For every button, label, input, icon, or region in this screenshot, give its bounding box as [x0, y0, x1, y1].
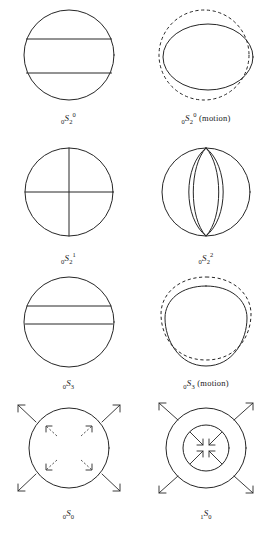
- oblate-ellipse-with-dashed-circle-art: [145, 0, 267, 112]
- panel-sub: 2: [190, 118, 193, 125]
- panel-sub: 0: [71, 513, 74, 520]
- panel-0s2-0: 0S20: [0, 0, 137, 140]
- panel-label-0s3: 0S3: [63, 378, 75, 392]
- panel-suffix: (motion): [199, 113, 230, 123]
- panel-0s3: 0S3: [0, 268, 137, 398]
- panel-sub: 3: [71, 383, 74, 390]
- sphere-two-horizontal-nodal-lines-offset-art: [8, 268, 130, 380]
- figure-caption: [0, 526, 275, 542]
- panel-sub: 2: [69, 118, 72, 125]
- sphere-radial-breathing-outward-art: [8, 398, 130, 510]
- concentric-circles-in-out-arrows-art: [145, 398, 267, 510]
- panel-sub: 3: [191, 383, 194, 390]
- panel-label-0s2-0-motion: 0S20 (motion): [182, 110, 231, 127]
- panel-1s0: 1S0: [137, 398, 275, 525]
- panel-sub: 0: [208, 513, 211, 520]
- panel-sup: 0: [73, 111, 76, 118]
- sphere-cross-nodal-lines-art: [8, 140, 130, 252]
- panel-grid: 0S20 0S20 (motion): [0, 0, 275, 525]
- panel-label-0s3-motion: 0S3 (motion): [183, 378, 228, 392]
- panel-label-0s2-0: 0S20: [61, 110, 76, 127]
- panel-sup: 2: [210, 251, 213, 258]
- panel-0s2-1: 0S21: [0, 140, 137, 268]
- sphere-two-horizontal-nodal-lines-art: [8, 0, 130, 112]
- figure-root: 0S20 0S20 (motion): [0, 0, 275, 542]
- panel-sub: 2: [207, 258, 210, 265]
- deformed-blob-with-dashed-outline-art: [145, 268, 267, 380]
- panel-0s2-0-motion: 0S20 (motion): [137, 0, 275, 140]
- panel-label-0s2-2: 0S22: [198, 250, 213, 267]
- panel-sub: 2: [69, 258, 72, 265]
- panel-label-0s0: 0S0: [63, 508, 75, 522]
- panel-label-1s0: 1S0: [200, 508, 212, 522]
- panel-0s2-2: 0S22: [137, 140, 275, 268]
- sphere-two-vertical-nodal-lines-art: [145, 140, 267, 252]
- panel-0s3-motion: 0S3 (motion): [137, 268, 275, 398]
- panel-0s0: 0S0: [0, 398, 137, 525]
- panel-sup: 0: [193, 111, 196, 118]
- panel-sup: 1: [73, 251, 76, 258]
- panel-label-0s2-1: 0S21: [61, 250, 76, 267]
